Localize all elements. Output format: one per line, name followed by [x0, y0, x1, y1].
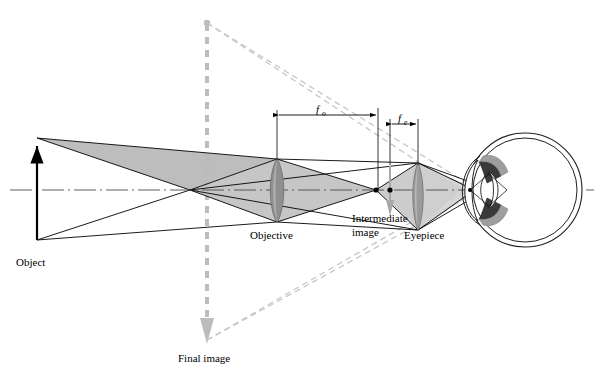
intermediate-image-label-line1: Intermediate [352, 212, 408, 224]
focal-objective-symbol: f [316, 103, 321, 115]
final-image-label: Final image [178, 352, 230, 364]
final-image-arrowhead [200, 318, 214, 344]
objective-label: Objective [250, 229, 293, 241]
eye-inner-sclera [473, 138, 577, 242]
eyepiece-label: Eyepiece [404, 229, 444, 241]
ray-base-to-objective-bottom [37, 222, 277, 240]
focal-eyepiece-subscript: e [404, 118, 408, 127]
focal-point-dot-secondary [387, 187, 392, 192]
diagram-canvas: Object Objective Intermediate image Eyep… [0, 0, 604, 384]
focal-objective-label: f o [316, 103, 326, 118]
object-label: Object [16, 256, 45, 268]
ray-chief-upper [277, 159, 418, 163]
microscope-ray-diagram: Object Objective Intermediate image Eyep… [0, 0, 604, 384]
eye-nodal-point [468, 188, 472, 192]
focal-objective-subscript: o [322, 109, 326, 118]
eye [462, 133, 582, 247]
focal-eyepiece-label: f e [398, 112, 408, 127]
intermediate-image-label-line2: image [352, 226, 379, 238]
ray-base-to-focus [37, 190, 190, 240]
focal-eyepiece-symbol: f [398, 112, 403, 124]
